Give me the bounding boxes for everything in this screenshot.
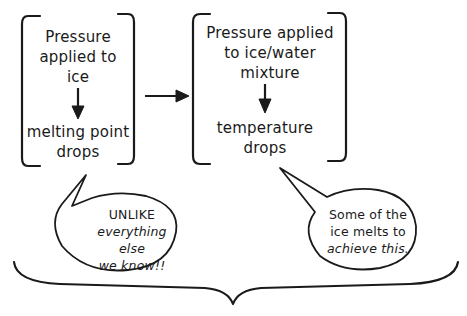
right-box-line: to ice/water (196, 43, 344, 63)
connector-arrow-head (176, 90, 189, 102)
callout-line: Some of the (320, 206, 416, 223)
left-box-line: drops (18, 142, 138, 162)
left-box-line: melting point (18, 122, 138, 142)
right-down-arrow-head (259, 99, 271, 113)
right-box-line: mixture (196, 63, 344, 83)
bottom-curly-brace (14, 262, 458, 304)
left-down-arrow-head (72, 106, 84, 119)
left-box-line: ice (24, 67, 132, 87)
callout-line: we know!! (86, 257, 178, 274)
left-box-cause-text: Pressure applied to ice (24, 27, 132, 87)
callout-line: ice melts to (320, 223, 416, 240)
callout-line: achieve this. (320, 240, 416, 257)
right-box-line: drops (200, 138, 330, 158)
callout-line: UNLIKE (86, 206, 178, 223)
right-callout-text: Some of the ice melts to achieve this. (320, 206, 416, 257)
left-callout-text: UNLIKE everything else we know!! (86, 206, 178, 274)
right-box-line: temperature (200, 118, 330, 138)
right-box-cause-text: Pressure applied to ice/water mixture (196, 23, 344, 83)
right-box-line: Pressure applied (196, 23, 344, 43)
callout-line: everything else (86, 223, 178, 257)
left-box-line: applied to (24, 47, 132, 67)
right-box-effect-text: temperature drops (200, 118, 330, 158)
left-box-effect-text: melting point drops (18, 122, 138, 162)
left-box-line: Pressure (24, 27, 132, 47)
